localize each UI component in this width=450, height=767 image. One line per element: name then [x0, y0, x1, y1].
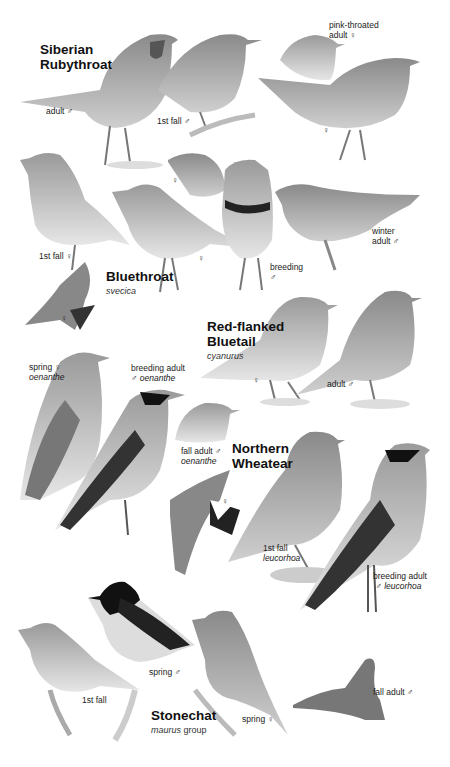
title-line: Siberian [40, 42, 112, 57]
label-bluethroat-breeding-male: breeding ♂ [270, 262, 303, 282]
label-line: adult ♀ [329, 30, 379, 40]
subspecies-cyanurus: cyanurus [207, 351, 244, 361]
label-stonechat-spring-male: spring ♂ [149, 667, 181, 677]
label-bluethroat-winter-adult-male: winter adult ♂ [372, 226, 399, 246]
label-wheatear-breeding-adult-male-leucorhoa: breeding adult ♂ leucorhoa [373, 571, 427, 591]
label-line: ♂ oenanthe [131, 373, 185, 383]
label-line: ♂ leucorhoa [373, 581, 427, 591]
label-line: breeding [270, 262, 303, 272]
title-line: Bluetail [207, 334, 284, 349]
stonechat-fall-adult-male-flying [293, 659, 385, 720]
title-line: Bluethroat [106, 269, 174, 284]
bluethroat-flying-female [25, 262, 95, 330]
bluethroat-breeding-male [222, 160, 273, 290]
label-bluethroat-female: ♀ [198, 253, 204, 263]
subspecies-name: oenanthe [140, 373, 175, 383]
label-stonechat-fall-adult-male: fall adult ♂ [373, 687, 413, 697]
species-title-northern-wheatear: Northern Wheatear [232, 441, 293, 471]
bluethroat-1st-fall-female [20, 153, 130, 270]
label-wheatear-flying-female: ♀ [222, 496, 228, 506]
rubythroat-pink-throated-female [280, 35, 345, 80]
field-guide-plate: Siberian Rubythroat Bluethroat svecica R… [0, 0, 450, 767]
label-wheatear-fall-adult-male-oenanthe: fall adult ♂ oenanthe [181, 446, 221, 466]
subspecies-name: leucorhoa [263, 553, 300, 563]
label-rubythroat-adult-male: adult ♂ [46, 106, 73, 116]
label-line: winter [372, 226, 399, 236]
label-line: adult ♂ [372, 236, 399, 246]
sex-symbol: ♂ [375, 581, 381, 591]
species-title-stonechat: Stonechat [151, 708, 216, 723]
title-line: Northern [232, 441, 293, 456]
sex-symbol: ♂ [131, 373, 137, 383]
label-bluethroat-female-head: ♀ [172, 175, 178, 185]
label-line: breeding adult [373, 571, 427, 581]
subspecies-name: leucorhoa [384, 581, 421, 591]
label-bluetail-female: ♀ [253, 375, 259, 385]
label-rubythroat-pink-throated-female: pink-throated adult ♀ [329, 20, 379, 40]
label-stonechat-1st-fall: 1st fall [82, 695, 107, 705]
label-line: ♂ [270, 272, 303, 282]
label-stonechat-spring-female: spring ♀ [242, 714, 274, 724]
label-bluethroat-flying-female: ♀ [61, 313, 67, 323]
label-line: oenanthe [29, 372, 64, 382]
subspecies-maurus-group: maurus group [151, 725, 207, 735]
species-title-bluethroat: Bluethroat [106, 269, 174, 284]
label-bluethroat-1st-fall-female: 1st fall ♀ [39, 251, 72, 261]
label-bluetail-adult-male: adult ♂ [327, 379, 354, 389]
wheatear-fall-adult-male-head [175, 403, 240, 443]
subspecies-svecica: svecica [106, 286, 136, 296]
species-title-siberian-rubythroat: Siberian Rubythroat [40, 42, 112, 72]
label-line: oenanthe [181, 456, 221, 466]
species-title-red-flanked-bluetail: Red-flanked Bluetail [207, 319, 284, 349]
label-line: fall adult ♂ [181, 446, 221, 456]
label-wheatear-1st-fall-leucorhoa: 1st fall leucorhoa [263, 543, 300, 563]
label-line: 1st fall [263, 543, 300, 553]
label-wheatear-spring-female-oenanthe: spring ♀ oenanthe [29, 362, 64, 382]
label-line: pink-throated [329, 20, 379, 30]
subspecies-suffix: group [184, 725, 207, 735]
label-line: breeding adult [131, 363, 185, 373]
title-line: Wheatear [232, 456, 293, 471]
label-rubythroat-1st-fall-male: 1st fall ♂ [157, 116, 190, 126]
subspecies-name: oenanthe [29, 372, 64, 382]
title-line: Stonechat [151, 708, 216, 723]
subspecies-name: oenanthe [181, 456, 216, 466]
title-line: Rubythroat [40, 57, 112, 72]
label-wheatear-breeding-adult-male-oenanthe: breeding adult ♂ oenanthe [131, 363, 185, 383]
rubythroat-female [258, 58, 420, 160]
subspecies-name: maurus [151, 725, 181, 735]
label-rubythroat-female: ♀ [323, 125, 329, 135]
label-line: leucorhoa [263, 553, 300, 563]
title-line: Red-flanked [207, 319, 284, 334]
label-line: spring ♀ [29, 362, 64, 372]
